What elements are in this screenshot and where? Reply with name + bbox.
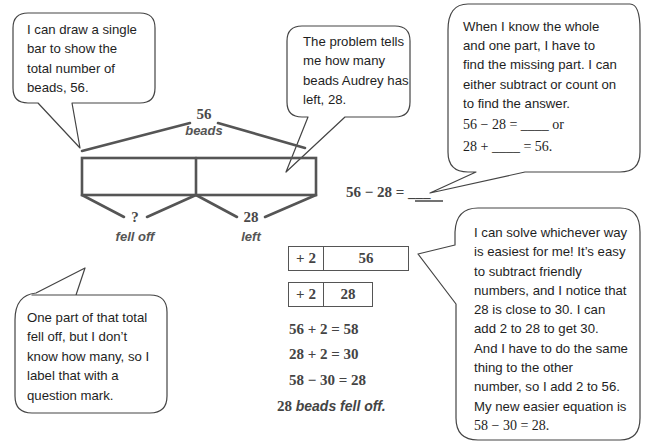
step-1: 56 + 2 = 58 <box>289 321 359 338</box>
adjust-cell: + 2 <box>289 247 324 270</box>
bubble-top-right-text: When I know the whole and one part, I ha… <box>463 17 643 156</box>
adjust-cell: + 2 <box>289 283 324 306</box>
text-line: And I have to do the same <box>474 339 644 358</box>
equation-line: 28 + ____ = 56. <box>463 137 643 156</box>
text-line: 28 is close to 30. I can <box>474 300 644 319</box>
text-line: bar to show the <box>27 39 157 58</box>
branch-known-left <box>196 195 237 217</box>
conclusion-text: beads fell off. <box>296 398 386 414</box>
text-line: When I know the whole <box>463 17 643 36</box>
unknown-part-value: ? <box>123 209 147 226</box>
conclusion: 28 beads fell off. <box>277 398 386 415</box>
known-part-label: left <box>230 229 272 244</box>
unknown-part-label: fell off <box>102 229 168 244</box>
text-line: total number of <box>27 59 157 78</box>
text-line: add 2 to 28 to get 30. <box>474 319 644 338</box>
text-line: I can solve whichever way <box>474 223 644 242</box>
text-line: me how many <box>303 51 413 70</box>
text-line: know how many, so I <box>27 347 172 366</box>
value-cell: 56 <box>324 247 408 270</box>
text-line: thing to the other <box>474 358 644 377</box>
total-brace-left <box>82 123 190 151</box>
text-line: fell off, but I don’t <box>27 327 172 346</box>
total-label: beads <box>176 123 232 138</box>
equation-line: 56 − 28 = ____ or <box>463 115 643 134</box>
text-line: to find the answer. <box>463 94 643 113</box>
text-line: number, so I add 2 to 56. <box>474 377 644 396</box>
equation-line: 58 − 30 = 28. <box>474 416 644 435</box>
branch-unknown-left <box>82 195 124 217</box>
bubble-top-left-text: I can draw a single bar to show the tota… <box>27 20 157 98</box>
text-line: either subtract or count on <box>463 75 643 94</box>
bubble-top-middle-text: The problem tells me how many beads Audr… <box>303 32 413 110</box>
text-line: is easiest for me! It’s easy <box>474 242 644 261</box>
branch-unknown-right <box>147 195 196 217</box>
text-line: One part of that total <box>27 308 172 327</box>
step-3: 58 − 30 = 28 <box>289 372 366 389</box>
text-line: left, 28. <box>303 90 413 109</box>
bar-outer <box>82 158 316 195</box>
text-line: My new easier equation is <box>474 397 644 416</box>
compensation-box-28: + 2 28 <box>288 282 373 307</box>
compensation-box-56: + 2 56 <box>288 246 409 271</box>
text-line: find the missing part. I can <box>463 55 643 74</box>
text-line: label that with a <box>27 366 172 385</box>
text-line: I can draw a single <box>27 20 157 39</box>
text-line: numbers, and I notice that <box>474 281 644 300</box>
text-line: beads, 56. <box>27 78 157 97</box>
text-line: The problem tells <box>303 32 413 51</box>
known-part-value: 28 <box>236 209 266 226</box>
bubble-bottom-right-text: I can solve whichever way is easiest for… <box>474 223 644 435</box>
text-line: question mark. <box>27 386 172 405</box>
conclusion-number: 28 <box>277 398 292 414</box>
branch-known-right <box>265 195 316 217</box>
bubble-bottom-left-text: One part of that total fell off, but I d… <box>27 308 172 405</box>
text-line: and one part, I have to <box>463 36 643 55</box>
value-cell: 28 <box>324 283 372 306</box>
text-line: beads Audrey has <box>303 71 413 90</box>
step-2: 28 + 2 = 30 <box>289 346 359 363</box>
text-line: to subtract friendly <box>474 262 644 281</box>
equation-with-blank: 56 − 28 = ___ <box>346 184 431 201</box>
total-value: 56 <box>188 106 220 123</box>
